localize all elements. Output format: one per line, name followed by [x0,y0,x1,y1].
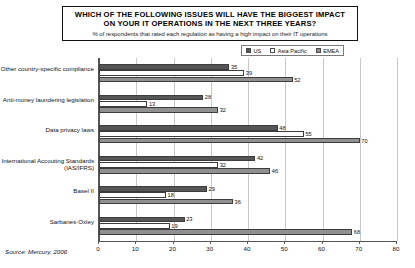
bar-value-label: 70 [360,138,368,144]
chart-screenshot: WHICH OF THE FOLLOWING ISSUES WILL HAVE … [0,0,415,268]
bar-row: 29 [99,186,397,192]
bar-row: 68 [99,229,397,235]
bar-row: 28 [99,95,397,101]
bar-asia-pacific[interactable] [99,131,304,137]
bar-us[interactable] [99,186,207,192]
legend-swatch-icon [316,48,321,53]
bar-row: 46 [99,168,397,174]
bar-emea[interactable] [99,229,352,235]
x-tick-label: 10 [132,245,139,252]
x-tick-label: 50 [281,245,288,252]
x-tick-label: 40 [244,245,251,252]
x-tick-label: 80 [393,245,400,252]
legend-swatch-icon [246,48,251,53]
bar-us[interactable] [99,156,255,162]
x-tick [284,241,285,244]
bar-emea[interactable] [99,107,218,113]
category-label: International Accouting Standards (IAS/I… [0,157,94,172]
x-tick [173,241,174,244]
x-tick [135,241,136,244]
bar-value-label: 48 [278,125,286,131]
legend-item-emea[interactable]: EMEA [316,48,339,54]
bar-row: 13 [99,101,397,107]
chart-legend: USAsia PacificEMEA [241,45,344,56]
bar-group: 231968 [99,211,396,242]
bar-group: 281332 [99,89,396,120]
bar-value-label: 55 [304,131,312,137]
bar-asia-pacific[interactable] [99,192,166,198]
bar-us[interactable] [99,125,278,131]
category-label: Anti-money laundering legislation [0,96,94,104]
bar-row: 48 [99,125,397,131]
gridline-80 [397,58,398,241]
bar-group: 353952 [99,58,396,89]
category-label: Data privacy laws [0,126,94,134]
bar-emea[interactable] [99,138,360,144]
legend-label: Asia Pacific [278,48,307,54]
legend-item-us[interactable]: US [246,48,261,54]
bar-value-label: 29 [207,186,215,192]
legend-item-asia-pacific[interactable]: Asia Pacific [270,48,306,54]
category-label: Other country-specific compliance [0,65,94,73]
bar-value-label: 46 [270,168,278,174]
bar-value-label: 28 [203,94,211,100]
category-label: Basel II [0,187,94,195]
bar-value-label: 18 [166,192,174,198]
bar-asia-pacific[interactable] [99,101,147,107]
legend-label: EMEA [323,48,339,54]
bar-row: 52 [99,77,397,83]
legend-label: US [254,48,262,54]
x-axis: 01020304050607080 [98,241,396,242]
bar-emea[interactable] [99,77,293,83]
x-tick [322,241,323,244]
bar-us[interactable] [99,217,185,223]
legend-swatch-icon [270,48,275,53]
bar-value-label: 13 [147,101,155,107]
bar-group: 423246 [99,150,396,181]
bar-row: 35 [99,64,397,70]
x-tick-label: 20 [169,245,176,252]
bar-value-label: 35 [229,64,237,70]
x-tick-label: 0 [96,245,99,252]
bar-value-label: 23 [185,216,193,222]
bar-value-label: 68 [352,229,360,235]
chart-title-line-2: ON YOUR IT OPERATIONS IN THE NEXT THREE … [67,19,353,28]
plot-area: 353952281332485570423246291836231968 [98,58,396,241]
x-tick-label: 30 [206,245,213,252]
bar-row: 32 [99,162,397,168]
x-tick [210,241,211,244]
bar-asia-pacific[interactable] [99,162,218,168]
x-tick-label: 70 [355,245,362,252]
x-tick [247,241,248,244]
bar-row: 18 [99,192,397,198]
bar-emea[interactable] [99,168,270,174]
bar-us[interactable] [99,64,229,70]
category-label: Sarbanes-Oxley [0,218,94,226]
x-tick [359,241,360,244]
x-tick [396,241,397,244]
bar-value-label: 19 [170,223,178,229]
bar-row: 19 [99,223,397,229]
bar-value-label: 32 [218,162,226,168]
x-tick-label: 60 [318,245,325,252]
x-tick [98,241,99,244]
bar-row: 42 [99,156,397,162]
bar-group: 291836 [99,180,396,211]
bar-emea[interactable] [99,199,233,205]
bar-row: 55 [99,131,397,137]
bar-value-label: 52 [293,77,301,83]
chart-title-line-1: WHICH OF THE FOLLOWING ISSUES WILL HAVE … [67,10,353,19]
bar-asia-pacific[interactable] [99,70,244,76]
bar-value-label: 39 [244,70,252,76]
bar-value-label: 42 [255,155,263,161]
bar-row: 39 [99,70,397,76]
bar-row: 70 [99,138,397,144]
bar-row: 32 [99,107,397,113]
bar-us[interactable] [99,95,203,101]
bar-group: 485570 [99,119,396,150]
bar-row: 23 [99,217,397,223]
bar-row: 36 [99,199,397,205]
bar-value-label: 32 [218,107,226,113]
bar-asia-pacific[interactable] [99,223,170,229]
chart-subtitle: % of respondents that rated each regulat… [67,30,353,38]
